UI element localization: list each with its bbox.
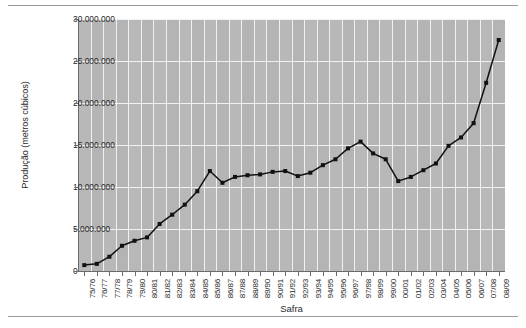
x-axis-title: Safra bbox=[78, 303, 505, 314]
x-axis-tick-mark bbox=[486, 271, 487, 276]
data-point-marker bbox=[158, 222, 162, 226]
x-axis-tick-mark bbox=[185, 271, 186, 276]
series-polyline bbox=[84, 40, 498, 265]
x-axis-tick-label: 06/07 bbox=[477, 279, 486, 298]
y-axis-tick-mark bbox=[74, 187, 78, 188]
x-axis-tick-label: 03/04 bbox=[439, 279, 448, 298]
y-axis-tick-mark bbox=[74, 103, 78, 104]
x-axis-tick-mark bbox=[298, 271, 299, 276]
x-axis-tick-label: 08/09 bbox=[502, 279, 511, 298]
x-axis-tick-label: 83/84 bbox=[188, 279, 197, 298]
data-point-marker bbox=[497, 38, 501, 42]
data-point-marker bbox=[333, 157, 337, 161]
x-axis-tick-label: 88/89 bbox=[251, 279, 260, 298]
x-axis-tick-label: 01/02 bbox=[414, 279, 423, 298]
x-axis-tick-label: 86/87 bbox=[226, 279, 235, 298]
x-axis-tick-label: 81/82 bbox=[163, 279, 172, 298]
x-axis-tick-label: 84/85 bbox=[201, 279, 210, 298]
data-point-marker bbox=[409, 175, 413, 179]
x-axis-tick-label: 79/80 bbox=[138, 279, 147, 298]
x-axis-tick-mark bbox=[248, 271, 249, 276]
data-point-marker bbox=[183, 203, 187, 207]
y-axis-title: Produção (metros cúbicos) bbox=[20, 35, 30, 235]
chart-figure: Produção (metros cúbicos) Safra 05.000.0… bbox=[0, 0, 526, 328]
y-axis-tick-mark bbox=[74, 19, 78, 20]
x-axis-tick-label: 76/77 bbox=[100, 279, 109, 298]
y-axis-tick-mark bbox=[74, 271, 78, 272]
x-axis-tick-label: 90/91 bbox=[276, 279, 285, 298]
data-point-marker bbox=[233, 175, 237, 179]
x-axis-tick-mark bbox=[373, 271, 374, 276]
x-axis-tick-mark bbox=[260, 271, 261, 276]
x-axis-tick-mark bbox=[235, 271, 236, 276]
data-point-marker bbox=[308, 171, 312, 175]
x-axis-tick-mark bbox=[336, 271, 337, 276]
x-axis-tick-label: 80/81 bbox=[150, 279, 159, 298]
x-axis-tick-label: 78/79 bbox=[125, 279, 134, 298]
x-axis-tick-mark bbox=[461, 271, 462, 276]
data-point-marker bbox=[208, 169, 212, 173]
x-axis-tick-mark bbox=[147, 271, 148, 276]
x-axis-tick-label: 05/06 bbox=[464, 279, 473, 298]
x-axis-tick-label: 91/92 bbox=[288, 279, 297, 298]
x-axis-tick-mark bbox=[210, 271, 211, 276]
x-axis-tick-mark bbox=[323, 271, 324, 276]
data-point-marker bbox=[220, 181, 224, 185]
y-axis-tick-mark bbox=[74, 145, 78, 146]
x-axis-tick-label: 92/93 bbox=[301, 279, 310, 298]
data-point-marker bbox=[82, 263, 86, 267]
x-axis-tick-mark bbox=[411, 271, 412, 276]
x-axis-tick-mark bbox=[97, 271, 98, 276]
x-axis-tick-label: 02/03 bbox=[427, 279, 436, 298]
x-axis-tick-mark bbox=[310, 271, 311, 276]
x-axis-tick-label: 77/78 bbox=[113, 279, 122, 298]
plot-area bbox=[78, 19, 505, 271]
top-divider-rule bbox=[8, 5, 518, 6]
y-axis-tick-mark bbox=[74, 61, 78, 62]
x-axis-tick-mark bbox=[160, 271, 161, 276]
data-point-marker bbox=[346, 146, 350, 150]
x-axis-tick-mark bbox=[84, 271, 85, 276]
data-point-marker bbox=[258, 172, 262, 176]
x-axis-tick-label: 85/86 bbox=[213, 279, 222, 298]
x-axis-line bbox=[78, 271, 505, 272]
x-axis-tick-mark bbox=[474, 271, 475, 276]
x-axis-tick-mark bbox=[361, 271, 362, 276]
x-axis-tick-mark bbox=[222, 271, 223, 276]
x-axis-tick-mark bbox=[122, 271, 123, 276]
data-point-marker bbox=[459, 135, 463, 139]
data-point-marker bbox=[384, 157, 388, 161]
y-axis-tick-mark bbox=[74, 229, 78, 230]
data-point-marker bbox=[107, 255, 111, 259]
data-point-marker bbox=[133, 239, 137, 243]
x-axis-tick-label: 94/95 bbox=[326, 279, 335, 298]
x-axis-tick-mark bbox=[109, 271, 110, 276]
x-axis-tick-label: 75/76 bbox=[88, 279, 97, 298]
x-axis-tick-mark bbox=[499, 271, 500, 276]
x-axis-tick-label: 07/08 bbox=[489, 279, 498, 298]
x-axis-tick-label: 96/97 bbox=[351, 279, 360, 298]
bottom-divider-rule bbox=[8, 316, 518, 317]
x-axis-tick-label: 00/01 bbox=[401, 279, 410, 298]
data-point-marker bbox=[359, 140, 363, 144]
x-axis-tick-mark bbox=[436, 271, 437, 276]
x-axis-tick-label: 99/00 bbox=[389, 279, 398, 298]
data-point-marker bbox=[472, 121, 476, 125]
x-axis-tick-label: 04/05 bbox=[452, 279, 461, 298]
x-axis-tick-label: 95/96 bbox=[339, 279, 348, 298]
x-axis-tick-mark bbox=[273, 271, 274, 276]
data-point-marker bbox=[321, 163, 325, 167]
x-axis-tick-mark bbox=[423, 271, 424, 276]
data-point-marker bbox=[120, 244, 124, 248]
x-axis-tick-mark bbox=[197, 271, 198, 276]
x-axis-tick-label: 89/90 bbox=[263, 279, 272, 298]
data-point-marker bbox=[446, 144, 450, 148]
data-point-marker bbox=[145, 235, 149, 239]
data-point-marker bbox=[421, 168, 425, 172]
x-axis-tick-label: 82/83 bbox=[175, 279, 184, 298]
x-axis-tick-mark bbox=[172, 271, 173, 276]
x-axis-tick-mark bbox=[386, 271, 387, 276]
x-axis-tick-mark bbox=[135, 271, 136, 276]
x-axis-tick-mark bbox=[285, 271, 286, 276]
data-point-marker bbox=[271, 170, 275, 174]
